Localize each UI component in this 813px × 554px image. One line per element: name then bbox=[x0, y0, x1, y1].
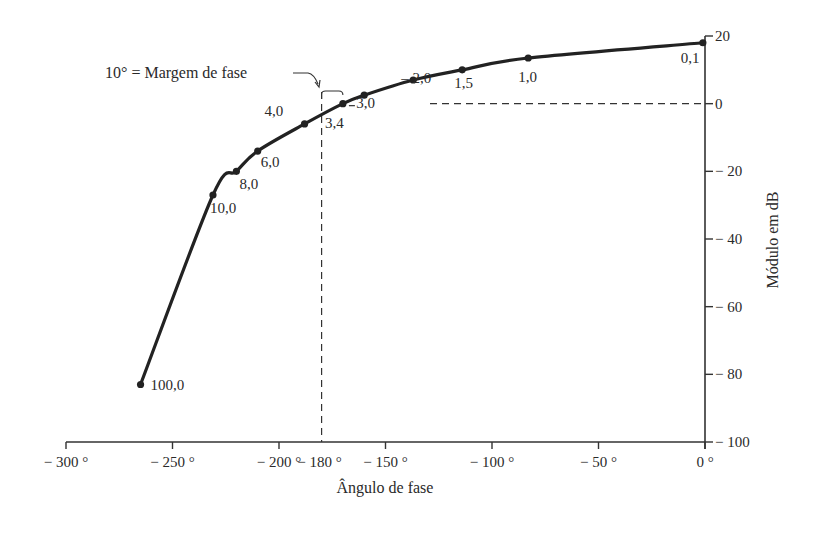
data-point-label: 100,0 bbox=[151, 377, 185, 393]
y-tick-label: 0 bbox=[715, 96, 723, 112]
data-point bbox=[209, 191, 216, 198]
axes: − 300 °− 250 °− 200 °− 180 °− 150 °− 100… bbox=[44, 28, 750, 470]
data-point bbox=[459, 66, 466, 73]
data-point bbox=[339, 100, 346, 107]
data-point-label: 3,4 bbox=[325, 115, 344, 131]
y-tick-label: − 60 bbox=[715, 299, 742, 315]
x-tick-label: − 200 ° bbox=[257, 454, 301, 470]
data-point bbox=[525, 54, 532, 61]
x-tick-label: − 50 ° bbox=[580, 454, 617, 470]
nichols-chart: − 300 °− 250 °− 200 °− 180 °− 150 °− 100… bbox=[0, 0, 813, 554]
data-point bbox=[301, 120, 308, 127]
y-tick-label: − 40 bbox=[715, 231, 742, 247]
data-point bbox=[137, 381, 144, 388]
data-point-label: 10,0 bbox=[210, 200, 236, 216]
annotation: 10° = Margem de fase bbox=[105, 64, 343, 99]
data-point-label: 1,0 bbox=[518, 69, 537, 85]
data-point-label: 6,0 bbox=[261, 154, 280, 170]
x-axis-label: Ângulo de fase bbox=[337, 478, 434, 497]
phase-margin-annotation: 10° = Margem de fase bbox=[105, 64, 247, 82]
data-point-label: 4,0 bbox=[265, 103, 284, 119]
annotation-arrow bbox=[293, 73, 318, 84]
data-point-label: 8,0 bbox=[239, 176, 258, 192]
x-tick-label: − 180 ° bbox=[297, 454, 341, 470]
phase-margin-bracket bbox=[322, 91, 343, 99]
data-points: 0,11,01,5– 2,03,03,44,06,08,010,0100,0 bbox=[137, 39, 707, 393]
y-tick-label: − 80 bbox=[715, 366, 742, 382]
y-axis-label: Módulo em dB bbox=[764, 192, 781, 289]
y-tick-label: − 100 bbox=[715, 434, 750, 450]
x-tick-label: − 100 ° bbox=[470, 454, 514, 470]
x-tick-label: − 300 ° bbox=[44, 454, 88, 470]
guide-lines bbox=[322, 92, 705, 442]
data-point bbox=[699, 39, 706, 46]
x-tick-label: 0 ° bbox=[696, 454, 713, 470]
y-tick-label: 20 bbox=[715, 28, 730, 44]
data-point bbox=[233, 168, 240, 175]
data-point-label: – 2,0 bbox=[400, 70, 431, 86]
data-point-label: 1,5 bbox=[454, 75, 473, 91]
data-point-label: 0,1 bbox=[681, 50, 700, 66]
x-tick-label: − 150 ° bbox=[363, 454, 407, 470]
x-tick-label: − 250 ° bbox=[150, 454, 194, 470]
data-point-label: 3,0 bbox=[356, 95, 375, 111]
y-tick-label: − 20 bbox=[715, 163, 742, 179]
